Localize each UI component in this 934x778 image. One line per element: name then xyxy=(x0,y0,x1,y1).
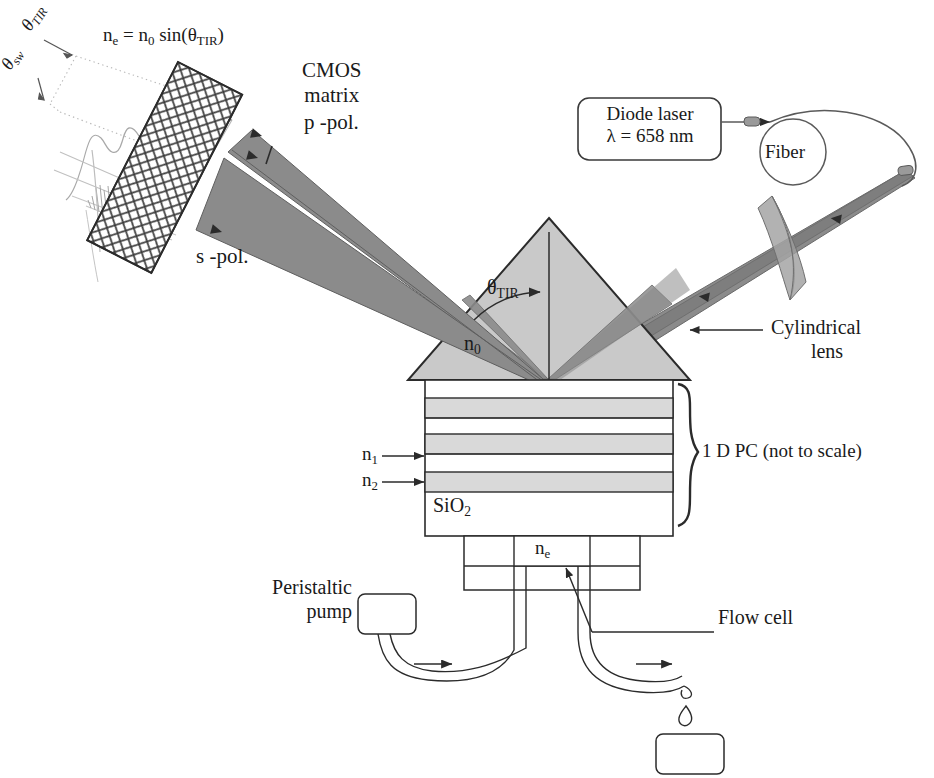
peristaltic-pump-box xyxy=(358,594,416,634)
n2-label: n2 xyxy=(336,469,378,493)
p-pol-label: p -pol. xyxy=(304,110,359,135)
inlet-tubing-inner xyxy=(390,632,526,672)
cylindrical-lens-line2: lens xyxy=(771,340,883,364)
n0-label: n0 xyxy=(464,332,481,358)
figure-canvas: ne = n0 sin(θTIR) θTIR θsw xyxy=(0,0,934,778)
peristaltic-pump-label: Peristaltic pump xyxy=(194,576,352,623)
s-pol-beam xyxy=(196,158,543,385)
pump-label-line2: pump xyxy=(194,600,352,624)
cmos-label-line1: CMOS xyxy=(302,58,362,83)
flow-cell xyxy=(464,536,714,632)
inlet-tubing-outer xyxy=(378,632,514,681)
refractive-index-leaders xyxy=(382,456,424,482)
one-d-pc-brace xyxy=(678,384,698,526)
theta-tir-prism-label: θTIR xyxy=(487,276,519,302)
fiber-path xyxy=(721,111,916,186)
diode-laser-line2: λ = 658 nm xyxy=(585,125,715,147)
fiber-label: Fiber xyxy=(765,141,805,163)
cmos-grid-surface xyxy=(87,62,242,273)
outlet-tip xyxy=(681,686,691,698)
fiber-connector-2 xyxy=(898,165,914,176)
ne-flowcell-label: ne xyxy=(535,537,550,561)
cmos-label-line2: matrix xyxy=(302,83,362,108)
n1-label: n1 xyxy=(336,443,378,467)
fluidics xyxy=(358,594,724,774)
sio2-label: SiO2 xyxy=(433,494,471,520)
flow-cell-label: Flow cell xyxy=(718,606,793,630)
s-pol-label: s -pol. xyxy=(196,244,249,269)
cmos-matrix xyxy=(87,62,242,273)
outlet-tubing-inner xyxy=(590,632,682,682)
pump-label-line1: Peristaltic xyxy=(194,576,352,600)
cylindrical-lens-line1: Cylindrical xyxy=(771,316,921,340)
pc-layer-high-1 xyxy=(425,398,673,418)
cylindrical-lens-label: Cylindrical lens xyxy=(771,316,921,363)
outlet-tubing-outer xyxy=(578,632,684,693)
cmos-label: CMOS matrix xyxy=(302,58,362,108)
diode-laser-label: Diode laser λ = 658 nm xyxy=(585,103,715,148)
pc-layer-high-3 xyxy=(425,472,673,492)
flowcell-chamber xyxy=(514,536,590,566)
diode-laser-line1: Diode laser xyxy=(585,103,715,125)
optics-layer xyxy=(0,0,934,778)
fiber-connector-1 xyxy=(744,117,760,126)
pc-layer-high-2 xyxy=(425,434,673,454)
droplet-icon xyxy=(679,706,692,726)
waste-container xyxy=(656,734,724,774)
one-d-pc-label: 1 D PC (not to scale) xyxy=(702,440,862,462)
